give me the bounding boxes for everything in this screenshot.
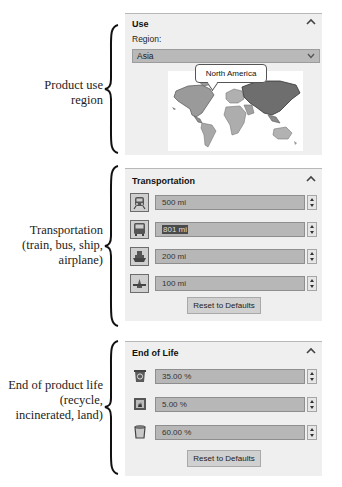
annotation-line: Transportation xyxy=(8,223,103,238)
incinerated-percent-input[interactable]: 5.00 % xyxy=(155,397,305,412)
eol-row-recycle: 35.00 % xyxy=(130,367,320,385)
airplane-distance-spinner[interactable] xyxy=(307,276,317,291)
landfill-bin-icon xyxy=(132,424,148,440)
panel-title: End of Life xyxy=(132,348,179,358)
region-label: Region: xyxy=(132,34,161,44)
curly-brace-icon xyxy=(104,24,120,154)
annotation-line: incinerated, land) xyxy=(0,408,103,423)
field-value-selected: 801 mi xyxy=(162,225,188,234)
landfill-percent-input[interactable]: 60.00 % xyxy=(155,425,305,440)
annotation-line: (recycle, xyxy=(0,393,103,408)
airplane-icon[interactable] xyxy=(130,274,149,293)
annotation-line: (train, bus, ship, xyxy=(8,238,103,253)
annotation-line: Product use xyxy=(18,78,103,93)
reset-to-defaults-button[interactable]: Reset to Defaults xyxy=(187,450,261,467)
annotation-line: End of product life xyxy=(0,378,103,393)
field-value: 200 mi xyxy=(162,252,186,261)
transport-row-airplane: 100 mi xyxy=(130,274,320,292)
field-value: 500 mi xyxy=(162,198,186,207)
map-region-europe xyxy=(226,89,244,103)
map-region-south-america xyxy=(201,123,216,147)
ship-distance-spinner[interactable] xyxy=(307,249,317,264)
annotation-line: region xyxy=(18,93,103,108)
curly-brace-icon xyxy=(104,165,120,327)
bus-distance-input[interactable]: 801 mi xyxy=(155,222,305,237)
transportation-panel: Transportation 500 mi 801 mi xyxy=(125,168,322,321)
panel-title: Use xyxy=(132,19,149,29)
field-value: 100 mi xyxy=(162,279,186,288)
map-region-oceania xyxy=(273,127,292,139)
train-icon[interactable] xyxy=(130,193,149,212)
annotation-transport: Transportation (train, bus, ship, airpla… xyxy=(8,223,103,268)
chevron-up-icon[interactable] xyxy=(306,18,316,26)
bus-icon[interactable] xyxy=(130,220,149,239)
landfill-percent-spinner[interactable] xyxy=(307,425,317,440)
chevron-up-icon[interactable] xyxy=(306,347,316,355)
eol-row-incinerated: 5.00 % xyxy=(130,395,320,413)
reset-to-defaults-button[interactable]: Reset to Defaults xyxy=(187,297,261,314)
transport-row-train: 500 mi xyxy=(130,193,320,211)
incinerated-percent-spinner[interactable] xyxy=(307,397,317,412)
region-dropdown[interactable]: Asia xyxy=(132,49,320,63)
annotation-line: airplane) xyxy=(8,253,103,268)
annotation-end-of-life: End of product life (recycle, incinerate… xyxy=(0,378,103,423)
field-value: 5.00 % xyxy=(162,400,187,409)
train-distance-spinner[interactable] xyxy=(307,195,317,210)
world-map-icon xyxy=(168,71,303,151)
transport-row-ship: 200 mi xyxy=(130,247,320,265)
recycle-percent-input[interactable]: 35.00 % xyxy=(155,369,305,384)
chevron-up-icon[interactable] xyxy=(306,175,316,183)
use-panel: Use Region: Asia xyxy=(125,13,322,155)
region-value: Asia xyxy=(137,51,154,61)
map-region-north-america xyxy=(174,85,214,117)
train-distance-input[interactable]: 500 mi xyxy=(155,195,305,210)
map-region-africa xyxy=(224,106,246,135)
end-of-life-panel: End of Life 35.00 % 5.00 % xyxy=(125,341,322,476)
panel-title: Transportation xyxy=(132,176,195,186)
bus-distance-spinner[interactable] xyxy=(307,222,317,237)
incinerator-icon xyxy=(132,396,148,412)
map-tooltip: North America xyxy=(195,64,267,83)
airplane-distance-input[interactable]: 100 mi xyxy=(155,276,305,291)
chevron-down-icon xyxy=(307,53,315,59)
ship-distance-input[interactable]: 200 mi xyxy=(155,249,305,264)
field-value: 60.00 % xyxy=(162,428,191,437)
field-value: 35.00 % xyxy=(162,372,191,381)
transport-row-bus: 801 mi xyxy=(130,220,320,238)
recycle-percent-spinner[interactable] xyxy=(307,369,317,384)
curly-brace-icon xyxy=(104,340,120,475)
recycle-bin-icon xyxy=(132,368,148,384)
ship-icon[interactable] xyxy=(130,247,149,266)
annotation-use: Product use region xyxy=(18,78,103,108)
eol-row-landfill: 60.00 % xyxy=(130,423,320,441)
world-map[interactable] xyxy=(168,71,303,151)
